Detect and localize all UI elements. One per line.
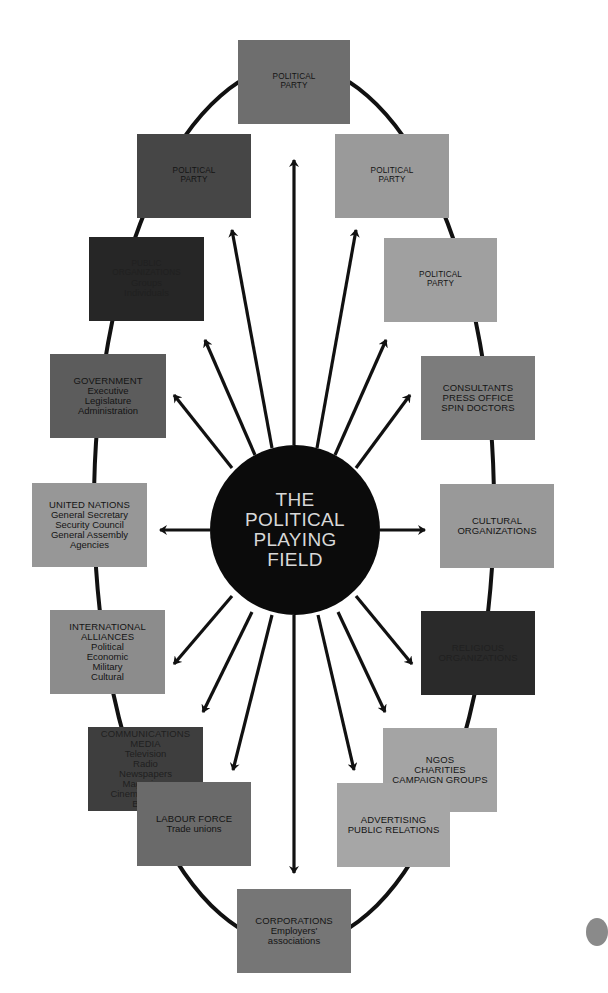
node-international-alliances: INTERNATIONALALLIANCESPoliticalEconomicM… — [50, 610, 165, 694]
arrow-to-ngos — [338, 612, 385, 712]
node-subtitle-line: associations — [268, 936, 320, 946]
node-subtitle-line: Agencies — [70, 540, 109, 550]
arrow-to-consultants — [356, 395, 410, 468]
node-political-party-top: POLITICALPARTY — [238, 40, 350, 124]
hub-title-line: PLAYING — [245, 530, 345, 550]
arrow-to-public-organizations — [205, 340, 255, 455]
node-political-party-upper-left: POLITICALPARTY — [137, 134, 251, 218]
node-label: RELIGIOUSORGANIZATIONS — [438, 643, 517, 663]
arrow-to-political-party-upper-right — [317, 230, 356, 448]
node-label: POLITICALPARTY — [419, 271, 462, 288]
node-title-line: PARTY — [378, 176, 405, 185]
node-subtitle-line: Trade unions — [166, 824, 221, 834]
node-label: PUBLICORGANIZATIONSGroupsIndividuals — [112, 260, 180, 297]
node-label: NGOsCHARITIESCAMPAIGN GROUPS — [392, 755, 487, 785]
node-label: ADVERTISINGPUBLIC RELATIONS — [348, 815, 440, 835]
node-advertising: ADVERTISINGPUBLIC RELATIONS — [337, 783, 450, 867]
node-label: LABOUR FORCETrade unions — [156, 814, 232, 834]
node-title-line: PARTY — [180, 176, 207, 185]
node-title-line: PARTY — [280, 82, 307, 91]
node-subtitle-line: Cultural — [91, 672, 124, 682]
node-government: GOVERNMENTExecutiveLegislatureAdministra… — [50, 354, 166, 438]
node-cultural-organizations: CULTURALORGANIZATIONS — [440, 484, 554, 568]
node-corporations: CORPORATIONSEmployers'associations — [237, 889, 351, 973]
center-hub-circle: THE POLITICAL PLAYING FIELD — [210, 445, 380, 615]
node-public-organizations: PUBLICORGANIZATIONSGroupsIndividuals — [89, 237, 204, 321]
node-political-party-upper-right: POLITICALPARTY — [335, 134, 449, 218]
node-political-party-right: POLITICALPARTY — [384, 238, 497, 322]
arrow-to-government — [174, 395, 232, 468]
node-label: INTERNATIONALALLIANCESPoliticalEconomicM… — [69, 622, 146, 682]
node-consultants: CONSULTANTSPRESS OFFICESPIN DOCTORS — [421, 356, 535, 440]
node-title-line: ORGANIZATIONS — [438, 653, 517, 663]
node-subtitle-line: Administration — [78, 406, 138, 416]
node-title-line: ORGANIZATIONS — [457, 526, 536, 536]
node-religious-organizations: RELIGIOUSORGANIZATIONS — [421, 611, 535, 695]
node-label: UNITED NATIONSGeneral SecretarySecurity … — [49, 500, 130, 550]
node-label: CULTURALORGANIZATIONS — [457, 516, 536, 536]
hub-title-line: POLITICAL — [245, 510, 345, 530]
node-title-line: PARTY — [427, 280, 454, 289]
node-label: POLITICALPARTY — [371, 167, 414, 184]
node-label: GOVERNMENTExecutiveLegislatureAdministra… — [73, 376, 142, 416]
node-label: CONSULTANTSPRESS OFFICESPIN DOCTORS — [441, 383, 514, 413]
node-united-nations: UNITED NATIONSGeneral SecretarySecurity … — [32, 483, 147, 567]
node-labour-force: LABOUR FORCETrade unions — [137, 782, 251, 866]
hub-title-line: THE — [245, 490, 345, 510]
arrow-to-communications-media — [203, 612, 252, 712]
node-subtitle-line: Individuals — [124, 288, 169, 298]
node-label: CORPORATIONSEmployers'associations — [255, 916, 333, 946]
arrow-to-international-alliances — [174, 596, 232, 664]
page-edge-tab — [586, 918, 608, 946]
hub-title: THE POLITICAL PLAYING FIELD — [245, 490, 345, 570]
node-title-line: PUBLIC RELATIONS — [348, 825, 440, 835]
hub-title-line: FIELD — [245, 550, 345, 570]
arrow-to-religious-organizations — [356, 596, 412, 664]
node-label: POLITICALPARTY — [273, 73, 316, 90]
node-title-line: SPIN DOCTORS — [441, 403, 514, 413]
node-label: POLITICALPARTY — [173, 167, 216, 184]
